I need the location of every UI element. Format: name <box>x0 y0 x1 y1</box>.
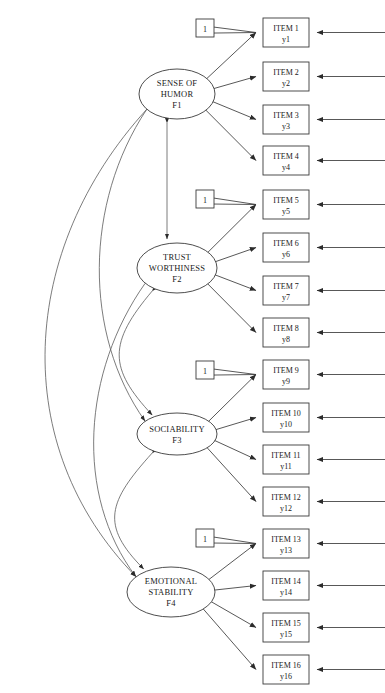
indicator-label: ITEM 15 <box>271 619 301 628</box>
factor-label: F3 <box>172 435 181 445</box>
factor-loading-arrow <box>215 418 256 430</box>
indicator-box: ITEM 8y8 <box>263 318 309 347</box>
indicator-variable: y15 <box>280 630 292 639</box>
factor-loading-arrow <box>207 283 256 332</box>
indicator-label: ITEM 5 <box>273 196 299 205</box>
latent-factor: SENSE OFHUMORF1 <box>139 69 215 119</box>
fixed-loading-value: 1 <box>203 535 207 544</box>
factor-loading-arrows <box>203 33 256 670</box>
indicator-label: ITEM 3 <box>273 111 299 120</box>
factor-label: TRUST <box>163 252 192 262</box>
factor-loading-arrow <box>215 248 256 262</box>
indicator-variable: y3 <box>282 122 290 131</box>
indicator-box: ITEM 3y3 <box>263 105 309 134</box>
fixed-loading-value: 1 <box>203 25 207 34</box>
indicator-label: ITEM 13 <box>271 535 301 544</box>
fixed-loading-marker: 1 <box>196 361 214 379</box>
fixed-marker-link <box>214 198 256 204</box>
indicator-label: ITEM 11 <box>271 451 300 460</box>
fixed-loading-marker: 1 <box>196 529 214 547</box>
indicator-variable: y5 <box>282 207 290 216</box>
fixed-marker-link <box>214 27 256 32</box>
fixed-marker-link <box>214 375 256 376</box>
indicator-box: ITEM 1y1 <box>263 18 309 47</box>
correlation-arrow-f1-f4 <box>45 110 147 577</box>
indicator-box: ITEM 6y6 <box>263 233 309 262</box>
path-diagram: ITEM 1y1ITEM 2y2ITEM 3y3ITEM 4y4ITEM 5y5… <box>0 0 385 693</box>
indicator-boxes: ITEM 1y1ITEM 2y2ITEM 3y3ITEM 4y4ITEM 5y5… <box>263 18 309 684</box>
factor-label: EMOTIONAL <box>145 576 197 586</box>
indicator-box: ITEM 9y9 <box>263 360 309 389</box>
indicator-label: ITEM 4 <box>273 152 299 161</box>
indicator-variable: y10 <box>280 420 292 429</box>
indicator-box: ITEM 10y10 <box>263 403 309 432</box>
indicator-variable: y14 <box>280 588 292 597</box>
factor-loading-arrow <box>214 586 256 591</box>
indicator-label: ITEM 8 <box>273 324 299 333</box>
indicator-variable: y8 <box>282 335 290 344</box>
factor-loading-arrow <box>208 544 256 580</box>
factor-label: STABILITY <box>148 587 193 597</box>
indicator-box: ITEM 2y2 <box>263 62 309 91</box>
residual-arrows <box>317 33 385 670</box>
factor-loading-arrow <box>207 447 256 501</box>
factor-label: F4 <box>166 598 176 608</box>
fixed-loading-marker: 1 <box>196 190 214 208</box>
indicator-variable: y16 <box>280 672 292 681</box>
factor-loading-arrow <box>214 440 256 459</box>
factor-loading-arrow <box>213 77 256 89</box>
indicator-box: ITEM 7y7 <box>263 276 309 305</box>
indicator-label: ITEM 2 <box>273 68 299 77</box>
diagram-canvas: ITEM 1y1ITEM 2y2ITEM 3y3ITEM 4y4ITEM 5y5… <box>0 0 385 693</box>
indicator-label: ITEM 10 <box>271 409 301 418</box>
fixed-marker-link <box>214 33 256 34</box>
factor-loading-arrow <box>208 205 256 253</box>
indicator-variable: y7 <box>282 293 290 302</box>
indicator-variable: y13 <box>280 546 292 555</box>
correlation-arrow-f2-f3 <box>119 291 152 415</box>
factor-label: WORTHINESS <box>149 263 205 273</box>
factor-label: F1 <box>172 100 181 110</box>
indicator-label: ITEM 9 <box>273 366 299 375</box>
factor-loading-arrow <box>208 375 256 422</box>
factor-loading-arrow <box>206 33 256 79</box>
indicator-variable: y1 <box>282 35 290 44</box>
factor-loading-arrow <box>215 275 256 291</box>
indicator-variable: y11 <box>280 462 292 471</box>
correlation-arrow-f3-f4 <box>115 453 153 569</box>
indicator-variable: y9 <box>282 377 290 386</box>
indicator-label: ITEM 1 <box>273 24 299 33</box>
indicator-box: ITEM 4y4 <box>263 146 309 175</box>
factor-label: HUMOR <box>161 89 194 99</box>
factor-loading-arrow <box>212 102 256 120</box>
indicator-box: ITEM 12y12 <box>263 487 309 516</box>
indicator-label: ITEM 14 <box>271 577 301 586</box>
factor-label: F2 <box>172 274 181 284</box>
indicator-box: ITEM 14y14 <box>263 571 309 600</box>
factor-correlation-arrows <box>45 110 167 577</box>
factor-loading-arrow <box>211 601 256 627</box>
indicator-box: ITEM 15y15 <box>263 613 309 642</box>
indicator-label: ITEM 16 <box>271 661 301 670</box>
indicator-variable: y2 <box>282 79 290 88</box>
indicator-box: ITEM 16y16 <box>263 655 309 684</box>
latent-factor: SOCIABILITYF3 <box>137 413 217 455</box>
indicator-variable: y4 <box>282 163 290 172</box>
indicator-label: ITEM 12 <box>271 493 301 502</box>
factor-label: SOCIABILITY <box>149 424 205 434</box>
indicator-variable: y12 <box>280 504 292 513</box>
latent-factor: TRUSTWORTHINESSF2 <box>137 243 217 293</box>
fixed-loading-value: 1 <box>203 196 207 205</box>
fixed-marker-link <box>214 369 256 374</box>
indicator-label: ITEM 6 <box>273 239 299 248</box>
indicator-variable: y6 <box>282 250 290 259</box>
indicator-label: ITEM 7 <box>273 282 299 291</box>
fixed-loading-value: 1 <box>203 367 207 376</box>
factor-loading-arrow <box>203 609 256 670</box>
indicator-box: ITEM 5y5 <box>263 190 309 219</box>
fixed-marker-link <box>214 537 256 543</box>
fixed-loading-marker: 1 <box>196 19 214 37</box>
factor-loading-arrow <box>205 110 256 161</box>
indicator-box: ITEM 11y11 <box>263 445 309 474</box>
latent-factor: EMOTIONALSTABILITYF4 <box>127 567 215 617</box>
